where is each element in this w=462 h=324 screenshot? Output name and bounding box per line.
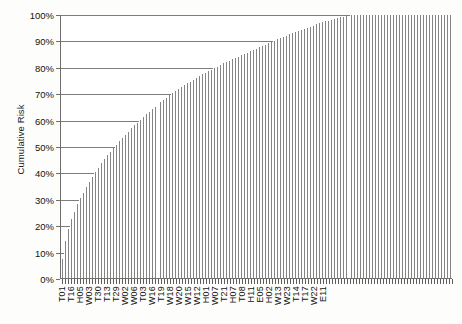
y-tick-mark bbox=[56, 147, 60, 148]
x-axis-labels: T01T16H05W03T30T13T29W02W06T03W16T19W18W… bbox=[60, 285, 452, 324]
y-tick-label: 60% bbox=[8, 115, 54, 126]
y-tick-mark bbox=[56, 94, 60, 95]
y-tick-mark bbox=[56, 41, 60, 42]
y-tick-mark bbox=[56, 68, 60, 69]
y-tick-label: 10% bbox=[8, 247, 54, 258]
y-tick-label: 0% bbox=[8, 274, 54, 285]
y-tick-mark bbox=[56, 121, 60, 122]
y-tick-mark bbox=[56, 226, 60, 227]
y-tick-mark bbox=[56, 200, 60, 201]
y-tick-mark bbox=[56, 173, 60, 174]
bar bbox=[449, 15, 452, 278]
y-tick-mark bbox=[56, 253, 60, 254]
y-tick-label: 50% bbox=[8, 142, 54, 153]
y-tick-mark bbox=[56, 15, 60, 16]
bar-series bbox=[61, 15, 452, 278]
x-tick-mark bbox=[450, 279, 453, 284]
y-tick-label: 20% bbox=[8, 221, 54, 232]
y-tick-label: 90% bbox=[8, 36, 54, 47]
y-tick-label: 70% bbox=[8, 89, 54, 100]
y-tick-label: 100% bbox=[8, 10, 54, 21]
y-tick-label: 40% bbox=[8, 168, 54, 179]
x-axis-ticks bbox=[60, 279, 452, 284]
y-tick-label: 80% bbox=[8, 62, 54, 73]
plot-area bbox=[60, 15, 452, 279]
x-label-slot bbox=[450, 285, 453, 324]
y-tick-label: 30% bbox=[8, 194, 54, 205]
cumulative-risk-pareto-chart: Cumulative Risk 0%10%20%30%40%50%60%70%8… bbox=[0, 0, 462, 324]
